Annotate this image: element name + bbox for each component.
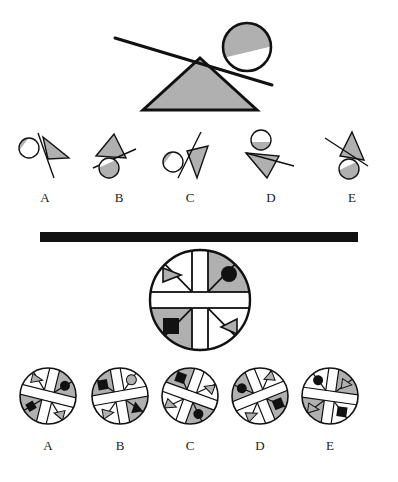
- square-black-icon: [97, 379, 109, 391]
- option-a-label-bottom: A: [36, 438, 60, 454]
- option-a-figure[interactable]: [14, 126, 84, 188]
- option-c-figure[interactable]: [158, 126, 232, 188]
- option-e-figure-bottom[interactable]: [298, 364, 362, 428]
- puzzle-figure: A B C: [0, 0, 398, 482]
- upper-problem-panel: A B C: [0, 0, 398, 228]
- triangle-gray-down: [187, 146, 208, 178]
- option-e-label-top: E: [340, 190, 364, 206]
- section-divider: [40, 232, 358, 242]
- circle-split-gray-below: [93, 156, 125, 182]
- option-c-figure-bottom[interactable]: [158, 364, 222, 428]
- option-e-label-bottom: E: [318, 438, 342, 454]
- option-d-label-bottom: D: [248, 438, 272, 454]
- option-c-label-bottom: C: [178, 438, 202, 454]
- circle-split-gray: [14, 136, 39, 160]
- triangle-gray-right: [43, 137, 69, 159]
- option-b-figure[interactable]: [88, 126, 160, 188]
- lower-problem-panel: A B: [0, 246, 398, 482]
- option-d-figure-bottom[interactable]: [228, 364, 292, 428]
- circle-split-gray-top: [244, 130, 280, 156]
- triangle-gray-up: [96, 134, 126, 158]
- option-a-label-top: A: [33, 190, 57, 206]
- circle-black-icon: [221, 266, 237, 282]
- option-b-label-bottom: B: [108, 438, 132, 454]
- circle-ball-split-gray-top: [215, 14, 285, 71]
- circle-split-gray-below: [333, 158, 365, 184]
- circle-split-gray: [158, 148, 183, 174]
- quartered-circle-large: [133, 248, 267, 352]
- lever-fulcrum-ball-figure: [0, 0, 398, 120]
- square-black-icon: [163, 318, 179, 334]
- option-d-figure[interactable]: [236, 126, 312, 188]
- option-a-figure-bottom[interactable]: [16, 364, 80, 428]
- option-d-label-top: D: [259, 190, 283, 206]
- option-c-label-top: C: [178, 190, 202, 206]
- option-b-label-top: B: [107, 190, 131, 206]
- option-b-figure-bottom[interactable]: [88, 364, 152, 428]
- square-black-icon: [336, 406, 347, 417]
- option-e-figure[interactable]: [320, 126, 390, 188]
